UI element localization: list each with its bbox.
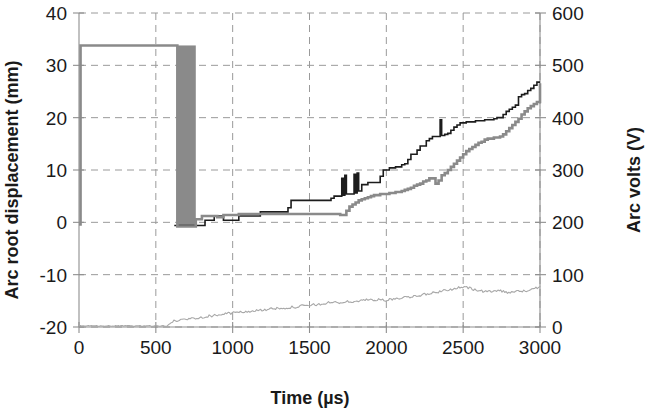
y-tick-label: -10 xyxy=(40,265,67,286)
blanking-band xyxy=(177,45,195,226)
y-tick-label: 20 xyxy=(46,108,67,129)
x-tick-label: 2000 xyxy=(365,337,407,358)
y-tick-label: 10 xyxy=(46,160,67,181)
arc-root-displacement-chart: -20-100102030400100200300400500600050010… xyxy=(0,0,655,413)
x-axis-title: Time (µs) xyxy=(270,388,349,408)
x-tick-label: 0 xyxy=(74,337,85,358)
y-tick-label: -20 xyxy=(40,317,67,338)
gridlines xyxy=(79,13,540,327)
chart-container: -20-100102030400100200300400500600050010… xyxy=(0,0,655,413)
y2-tick-label: 200 xyxy=(552,212,584,233)
y2-tick-label: 300 xyxy=(552,160,584,181)
y-axis-title: Arc root displacement (mm) xyxy=(2,60,22,299)
series-line xyxy=(174,82,540,225)
x-tick-label: 500 xyxy=(140,337,172,358)
x-tick-label: 3000 xyxy=(519,337,561,358)
x-tick-label: 1000 xyxy=(212,337,254,358)
y2-tick-label: 0 xyxy=(552,317,563,338)
y2-tick-label: 100 xyxy=(552,265,584,286)
x-tick-label: 1500 xyxy=(288,337,330,358)
y-tick-label: 0 xyxy=(56,212,67,233)
blanking-band xyxy=(177,45,195,226)
y2-tick-label: 600 xyxy=(552,3,584,24)
x-tick-label: 2500 xyxy=(442,337,484,358)
y2-tick-label: 500 xyxy=(552,55,584,76)
y-tick-label: 40 xyxy=(46,3,67,24)
y2-axis-title: Arc volts (V) xyxy=(624,127,644,233)
y-tick-label: 30 xyxy=(46,55,67,76)
y2-tick-label: 400 xyxy=(552,108,584,129)
